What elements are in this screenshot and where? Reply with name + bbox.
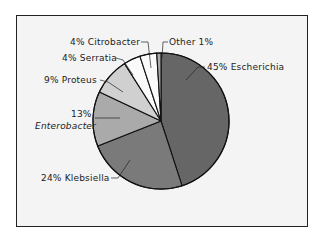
pie-chart: Other 1% 4% Citrobacter 4% Serratia 9% P… xyxy=(0,0,324,238)
label-proteus: 9% Proteus xyxy=(44,75,97,85)
label-enterobacter-pct: 13% xyxy=(71,109,92,119)
label-other: Other 1% xyxy=(169,37,214,47)
label-escherichia: 45% Escherichia xyxy=(207,62,284,72)
label-serratia: 4% Serratia xyxy=(62,53,117,63)
label-citrobacter: 4% Citrobacter xyxy=(70,37,140,47)
label-enterobacter-name: Enterobacter xyxy=(35,121,97,131)
label-klebsiella: 24% Klebsiella xyxy=(41,173,110,183)
